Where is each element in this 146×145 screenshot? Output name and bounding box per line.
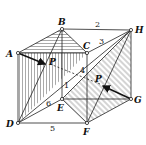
label-e: E <box>56 103 64 113</box>
num-4: 4 <box>80 66 85 75</box>
label-g: G <box>134 95 142 105</box>
label-d: D <box>5 119 14 129</box>
label-c: C <box>83 41 91 51</box>
num-6: 6 <box>46 99 51 108</box>
cube-svg: A B C H D E F G P P 1 2 3 4 5 6 <box>0 0 146 145</box>
label-p1: P <box>48 57 56 67</box>
label-h: H <box>134 25 144 35</box>
label-b: B <box>57 17 66 27</box>
label-f: F <box>82 127 90 137</box>
label-a: A <box>5 49 13 59</box>
num-3: 3 <box>99 37 104 46</box>
label-p2: P <box>94 74 102 84</box>
num-2: 2 <box>95 20 100 29</box>
cube-diagram: A B C H D E F G P P 1 2 3 4 5 6 <box>0 0 146 145</box>
num-1: 1 <box>64 81 69 90</box>
num-5: 5 <box>50 124 55 133</box>
